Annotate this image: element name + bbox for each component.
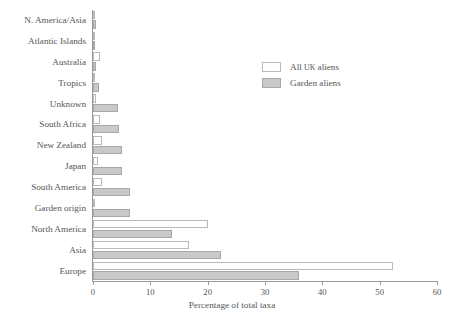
x-axis-tick xyxy=(437,281,438,285)
bar-all-uk-aliens xyxy=(93,199,95,207)
bar-all-uk-aliens xyxy=(93,52,100,60)
y-axis-tick-label: N. America/Asia xyxy=(0,16,93,25)
bar-garden-aliens xyxy=(93,83,99,91)
y-axis-tick-label: Japan xyxy=(0,162,93,171)
bar-all-uk-aliens xyxy=(93,32,95,40)
chart-category-row: Europe xyxy=(93,261,437,282)
y-axis-tick-label: Australia xyxy=(0,58,93,67)
chart-category-row: New Zealand xyxy=(93,136,437,157)
bar-all-uk-aliens xyxy=(93,241,189,249)
bar-all-uk-aliens xyxy=(93,220,208,228)
bar-all-uk-aliens xyxy=(93,115,100,123)
bar-garden-aliens xyxy=(93,125,119,133)
y-axis-tick-label: North America xyxy=(0,225,93,234)
x-axis-tick xyxy=(208,281,209,285)
bar-garden-aliens xyxy=(93,188,130,196)
bar-all-uk-aliens xyxy=(93,178,102,186)
y-axis-tick-label: New Zealand xyxy=(0,141,93,150)
bar-all-uk-aliens xyxy=(93,11,95,19)
x-axis-tick xyxy=(322,281,323,285)
bar-garden-aliens xyxy=(93,41,95,49)
x-axis-tick xyxy=(380,281,381,285)
bar-garden-aliens xyxy=(93,251,221,259)
bar-all-uk-aliens xyxy=(93,94,96,102)
bar-garden-aliens xyxy=(93,20,96,28)
x-axis-tick-label: 30 xyxy=(245,287,285,297)
y-axis-tick-label: Unknown xyxy=(0,100,93,109)
chart-category-row: N. America/Asia xyxy=(93,10,437,31)
chart-category-row: Japan xyxy=(93,156,437,177)
chart-category-row: South America xyxy=(93,177,437,198)
bar-all-uk-aliens xyxy=(93,157,98,165)
x-axis-title: Percentage of total taxa xyxy=(0,300,464,310)
bar-all-uk-aliens xyxy=(93,262,393,270)
chart-category-row: Asia xyxy=(93,240,437,261)
y-axis-tick-label: Atlantic Islands xyxy=(0,37,93,46)
x-axis-tick-label: 40 xyxy=(302,287,342,297)
bar-chart: N. America/AsiaAtlantic IslandsAustralia… xyxy=(0,0,464,324)
x-axis-tick-label: 60 xyxy=(417,287,457,297)
bar-garden-aliens xyxy=(93,146,122,154)
x-axis-tick xyxy=(93,281,94,285)
chart-category-row: North America xyxy=(93,219,437,240)
y-axis-tick-label: Garden origin xyxy=(0,204,93,213)
y-axis-tick-label: South Africa xyxy=(0,120,93,129)
legend-item-all-uk-aliens: All UK aliens xyxy=(262,59,341,75)
chart-category-row: Unknown xyxy=(93,94,437,115)
legend-label-all-uk-aliens: All UK aliens xyxy=(290,62,339,72)
bar-garden-aliens xyxy=(93,271,299,279)
chart-category-row: Garden origin xyxy=(93,198,437,219)
chart-legend: All UK aliens Garden aliens xyxy=(262,59,341,91)
bar-garden-aliens xyxy=(93,62,96,70)
legend-label-garden-aliens: Garden aliens xyxy=(290,78,341,88)
chart-category-row: South Africa xyxy=(93,115,437,136)
x-axis-tick xyxy=(265,281,266,285)
bar-garden-aliens xyxy=(93,230,172,238)
bar-garden-aliens xyxy=(93,209,130,217)
x-axis-tick-label: 20 xyxy=(188,287,228,297)
plot-area: N. America/AsiaAtlantic IslandsAustralia… xyxy=(93,10,437,282)
legend-swatch-all-uk-aliens xyxy=(262,62,281,72)
y-axis-tick-label: Asia xyxy=(0,246,93,255)
x-axis-tick-label: 10 xyxy=(130,287,170,297)
x-axis-tick-label: 0 xyxy=(73,287,113,297)
bar-all-uk-aliens xyxy=(93,136,102,144)
bar-garden-aliens xyxy=(93,104,118,112)
x-axis-tick xyxy=(150,281,151,285)
legend-swatch-garden-aliens xyxy=(262,78,281,88)
y-axis-tick-label: Tropics xyxy=(0,79,93,88)
chart-category-row: Atlantic Islands xyxy=(93,31,437,52)
legend-item-garden-aliens: Garden aliens xyxy=(262,75,341,91)
y-axis-tick-label: South America xyxy=(0,183,93,192)
y-axis-tick-label: Europe xyxy=(0,267,93,276)
bar-garden-aliens xyxy=(93,167,122,175)
bar-all-uk-aliens xyxy=(93,73,95,81)
x-axis-tick-label: 50 xyxy=(360,287,400,297)
